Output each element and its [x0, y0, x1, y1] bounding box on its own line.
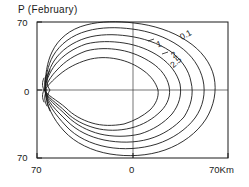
leader-2 [162, 52, 168, 54]
y-axis-tick-top: 70 [17, 17, 28, 28]
contour-line-inner [45, 58, 158, 126]
leader-1 [148, 39, 154, 41]
contour-lines [43, 22, 216, 156]
chart-canvas [0, 0, 249, 187]
contour-line-4 [45, 42, 181, 137]
crosshair-axes [37, 22, 228, 158]
x-axis-tick-left: 70 [31, 164, 42, 175]
x-axis-tick-right: 70Km [209, 164, 234, 175]
x-axis-tick-mid: 0 [129, 164, 134, 175]
y-axis-tick-mid: 0 [24, 86, 29, 97]
contour-plot-figure: P (February) [0, 0, 249, 187]
y-axis-tick-bottom: 70 [17, 152, 28, 163]
